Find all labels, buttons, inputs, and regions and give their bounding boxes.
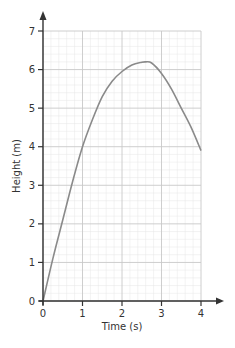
y-axis-ticks: 01234567 xyxy=(29,26,43,307)
x-axis-label: Time (s) xyxy=(101,321,143,332)
x-tick-label: 4 xyxy=(198,308,204,319)
x-tick-label: 0 xyxy=(40,308,46,319)
y-tick-label: 1 xyxy=(29,257,35,268)
y-tick-label: 3 xyxy=(29,180,35,191)
height-time-chart: 01234567 01234 Time (s) Height (m) xyxy=(0,0,235,348)
x-tick-label: 2 xyxy=(119,308,125,319)
y-axis-label: Height (m) xyxy=(11,139,22,193)
y-tick-label: 2 xyxy=(29,218,35,229)
x-axis-ticks: 01234 xyxy=(40,301,204,319)
y-tick-label: 5 xyxy=(29,103,35,114)
y-tick-label: 4 xyxy=(29,141,35,152)
y-tick-label: 7 xyxy=(29,26,35,37)
x-tick-label: 1 xyxy=(79,308,85,319)
y-axis-arrow-icon xyxy=(40,11,47,20)
y-tick-label: 6 xyxy=(29,64,35,75)
x-tick-label: 3 xyxy=(158,308,164,319)
y-tick-label: 0 xyxy=(29,296,35,307)
x-axis-arrow-icon xyxy=(216,298,224,305)
